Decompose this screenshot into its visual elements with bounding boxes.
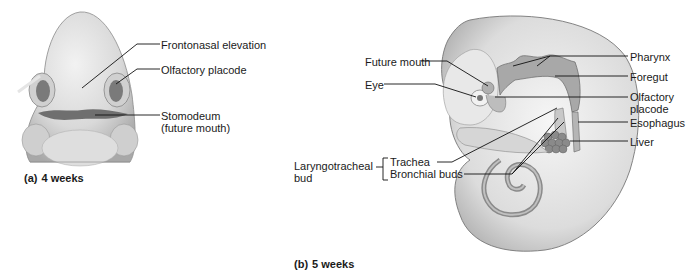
panel-b-embryo-drawing [442,16,639,251]
embryo-diagram [0,0,700,275]
label-liver: Liver [630,136,654,148]
label-frontonasal-elevation: Frontonasal elevation [161,39,266,51]
label-future-mouth-b: Future mouth [365,56,430,68]
label-eye: Eye [365,79,384,91]
label-olfactory-placode-b-line2: placode [630,103,669,115]
laryngotracheal-bracket [376,158,388,180]
label-esophagus: Esophagus [630,117,685,129]
label-laryngotracheal-line1: Laryngotracheal [294,160,373,172]
caption-a-letter: (a) [24,172,37,184]
label-stomodeum: Stomodeum [161,110,220,122]
label-pharynx: Pharynx [630,51,670,63]
caption-a-text: 4 weeks [41,172,83,184]
caption-b-text: 5 weeks [312,258,354,270]
label-foregut: Foregut [630,71,668,83]
label-olfactory-placode-b-line1: Olfactory [630,91,674,103]
caption-b-letter: (b) [294,258,308,270]
caption-panel-b: (b)5 weeks [294,258,354,270]
label-laryngotracheal-line2: bud [294,172,312,184]
label-olfactory-placode-a: Olfactory placode [161,64,247,76]
caption-panel-a: (a)4 weeks [24,172,84,184]
label-future-mouth-a: (future mouth) [161,122,230,134]
panel-a-face-drawing [22,12,138,166]
label-bronchial-buds: Bronchial buds [390,168,463,180]
label-trachea: Trachea [390,156,430,168]
